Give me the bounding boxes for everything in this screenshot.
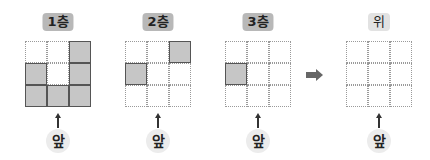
empty-cell — [247, 41, 269, 63]
empty-cell — [346, 41, 368, 63]
empty-cell — [269, 63, 291, 85]
panel-layer-1: 1층 앞 — [25, 0, 91, 160]
empty-cell — [125, 85, 147, 107]
layer-grid — [25, 41, 91, 107]
empty-cell — [390, 41, 412, 63]
empty-cell — [368, 41, 390, 63]
empty-cell — [225, 85, 247, 107]
filled-cell — [25, 63, 47, 85]
filled-cell — [69, 85, 91, 107]
empty-cell — [368, 85, 390, 107]
empty-cell — [368, 63, 390, 85]
front-label: 앞 — [146, 129, 170, 153]
panel-layer-3: 3층 앞 — [225, 0, 291, 160]
empty-cell — [147, 85, 169, 107]
layer-label: 2층 — [142, 13, 173, 31]
front-label: 앞 — [246, 129, 270, 153]
filled-cell — [225, 63, 247, 85]
right-arrow-icon — [306, 69, 324, 81]
filled-cell — [169, 41, 191, 63]
filled-cell — [69, 63, 91, 85]
panel-layer-2: 2층 앞 — [125, 0, 191, 160]
empty-cell — [169, 85, 191, 107]
up-arrow-icon — [157, 113, 159, 127]
front-label: 앞 — [367, 129, 391, 153]
empty-cell — [47, 41, 69, 63]
filled-cell — [47, 85, 69, 107]
panel-top-view: 위 앞 — [346, 0, 412, 160]
empty-cell — [125, 41, 147, 63]
layer-label: 1층 — [42, 13, 73, 31]
empty-cell — [247, 63, 269, 85]
empty-cell — [225, 41, 247, 63]
filled-cell — [25, 85, 47, 107]
layer-grid — [225, 41, 291, 107]
empty-cell — [390, 85, 412, 107]
layer-label: 3층 — [242, 13, 273, 31]
empty-cell — [390, 63, 412, 85]
up-arrow-icon — [57, 113, 59, 127]
top-view-label: 위 — [368, 13, 390, 31]
empty-cell — [169, 63, 191, 85]
layer-grid — [125, 41, 191, 107]
top-view-grid — [346, 41, 412, 107]
empty-cell — [269, 85, 291, 107]
filled-cell — [69, 41, 91, 63]
empty-cell — [25, 41, 47, 63]
empty-cell — [247, 85, 269, 107]
empty-cell — [346, 63, 368, 85]
front-label: 앞 — [46, 129, 70, 153]
empty-cell — [346, 85, 368, 107]
empty-cell — [147, 63, 169, 85]
empty-cell — [147, 41, 169, 63]
filled-cell — [125, 63, 147, 85]
up-arrow-icon — [257, 113, 259, 127]
empty-cell — [47, 63, 69, 85]
up-arrow-icon — [378, 113, 380, 127]
empty-cell — [269, 41, 291, 63]
